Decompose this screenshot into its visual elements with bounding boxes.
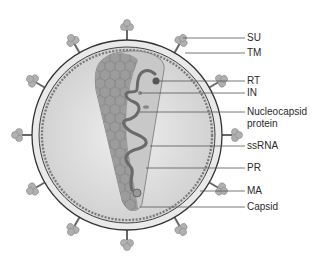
label-capsid: Capsid [247,201,278,212]
label-rt: RT [247,75,260,86]
label-pr: PR [247,162,261,173]
label-nucleocapsid-line2: protein [247,118,278,129]
retrovirus-diagram [0,0,329,259]
label-ssrna: ssRNA [247,140,278,151]
capsid-tip-enzyme [133,189,141,197]
label-nucleocapsid: Nucleocapsid [247,106,307,117]
label-in: IN [247,87,257,98]
label-ma: MA [247,185,262,196]
pr-enzyme [143,105,149,109]
label-tm: TM [247,47,261,58]
label-su: SU [247,32,261,43]
